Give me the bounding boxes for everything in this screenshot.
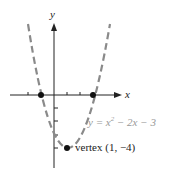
y-axis-arrow-icon bbox=[51, 23, 57, 31]
root-point-neg1 bbox=[38, 92, 44, 98]
x-axis-arrow-icon bbox=[114, 92, 122, 98]
y-axis-label: y bbox=[50, 8, 55, 20]
equation-prefix: y = x bbox=[88, 116, 111, 128]
vertex-label: vertex (1, −4) bbox=[75, 141, 135, 153]
parabola-curve bbox=[28, 24, 110, 148]
root-point-3 bbox=[90, 92, 96, 98]
equation-label: y = x2 − 2x − 3 bbox=[88, 115, 156, 128]
x-axis-label: x bbox=[125, 88, 130, 100]
vertex-point bbox=[64, 145, 70, 151]
y-ticks bbox=[54, 108, 58, 148]
equation-suffix: − 2x − 3 bbox=[114, 116, 156, 128]
